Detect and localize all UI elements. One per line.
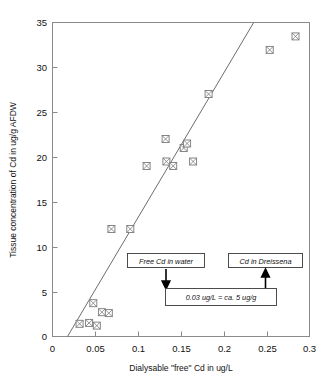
- y-tick-label: 20: [36, 152, 47, 163]
- data-point: [127, 226, 134, 233]
- data-point: [170, 163, 177, 170]
- y-tick-label: 15: [36, 197, 47, 208]
- chart-canvas: 35 30 25 20 15 10 5 0 0 0.05 0.1 0.15 0.…: [0, 0, 332, 387]
- data-point: [266, 46, 273, 53]
- x-tick-label: 0: [50, 343, 55, 354]
- y-tick-label: 5: [42, 287, 47, 298]
- y-axis-ticks: [53, 23, 58, 337]
- x-tick-label: 0.15: [172, 343, 191, 354]
- y-tick-label: 25: [36, 107, 47, 118]
- data-point: [162, 136, 169, 143]
- y-tick-label: 0: [42, 331, 47, 342]
- data-point: [105, 310, 112, 317]
- y-tick-label: 35: [36, 17, 47, 28]
- annotation-label: Free Cd in water: [139, 257, 194, 266]
- x-axis-tick-labels: 0 0.05 0.1 0.15 0.2 0.25 0.3: [50, 343, 316, 354]
- data-point: [190, 158, 197, 165]
- scatter-chart-figure: 35 30 25 20 15 10 5 0 0 0.05 0.1 0.15 0.…: [0, 0, 332, 387]
- x-tick-label: 0.1: [132, 343, 145, 354]
- data-point: [76, 320, 83, 327]
- x-tick-label: 0.2: [218, 343, 231, 354]
- annotation-label: Cd in Dreissena: [240, 257, 292, 266]
- annotation-cd-in-dreissena: Cd in Dreissena: [229, 254, 303, 290]
- x-tick-label: 0.05: [86, 343, 105, 354]
- annotation-free-cd-in-water: Free Cd in water: [128, 254, 205, 290]
- x-tick-label: 0.25: [258, 343, 277, 354]
- data-point: [143, 163, 150, 170]
- y-axis-title: Tissue concentration of Cd in ug/g AFDW: [8, 102, 18, 258]
- x-axis-ticks: [53, 332, 310, 337]
- data-point: [108, 226, 115, 233]
- data-point: [184, 140, 191, 147]
- x-axis-title: Dialysable "free" Cd in ug/L: [129, 363, 233, 373]
- data-point: [292, 33, 299, 40]
- data-point: [205, 91, 212, 98]
- data-point: [86, 319, 93, 326]
- x-tick-label: 0.3: [303, 343, 316, 354]
- data-point: [163, 158, 170, 165]
- y-tick-label: 10: [36, 242, 47, 253]
- data-point: [90, 300, 97, 307]
- annotation-label: 0.03 ug/L = ca. 5 ug/g: [186, 293, 257, 302]
- y-tick-label: 30: [36, 62, 47, 73]
- data-point: [98, 309, 105, 316]
- y-axis-tick-labels: 35 30 25 20 15 10 5 0: [36, 17, 47, 342]
- annotation-conversion-note: 0.03 ug/L = ca. 5 ug/g: [166, 289, 277, 306]
- data-point: [93, 322, 100, 329]
